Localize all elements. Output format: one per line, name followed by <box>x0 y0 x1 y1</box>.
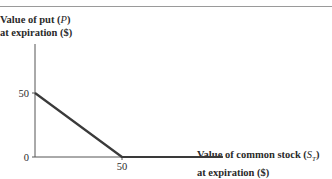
y-tick-label: 0 <box>24 152 29 163</box>
put-payoff-line <box>35 93 223 157</box>
chart-svg: 05050 <box>0 0 332 179</box>
y-tick-label: 50 <box>19 88 30 99</box>
x-tick-label: 50 <box>117 161 128 172</box>
